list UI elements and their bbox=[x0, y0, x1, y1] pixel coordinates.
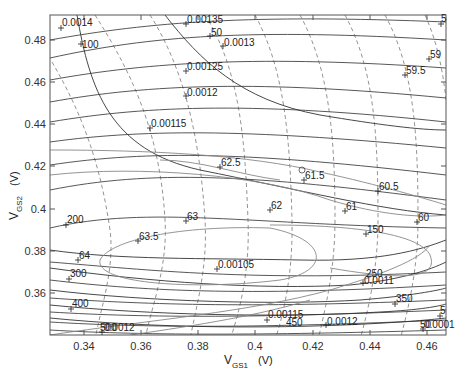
contour-label: 61.5 bbox=[305, 170, 325, 181]
x-axis-title-main: V bbox=[224, 353, 232, 367]
plot-frame bbox=[50, 15, 446, 335]
y-axis-title: V GS2 (V) bbox=[7, 171, 24, 220]
plot-area bbox=[50, 15, 450, 340]
contour-label: 0.0012 bbox=[327, 316, 358, 327]
y-tick-label: 0.46 bbox=[25, 76, 46, 88]
contour-label: 300 bbox=[70, 268, 87, 279]
x-tick-label: 0.44 bbox=[359, 340, 380, 352]
contour-label: 63.5 bbox=[139, 231, 159, 242]
contour-label: 100 bbox=[82, 39, 99, 50]
y-axis-title-sub: GS2 bbox=[15, 195, 24, 212]
contour-label: 59.5 bbox=[406, 65, 426, 76]
contour-label: 350 bbox=[396, 293, 413, 304]
current-contours bbox=[50, 19, 446, 334]
x-tick-label: 0.4 bbox=[247, 340, 262, 352]
x-tick-labels: 0.34 0.36 0.38 0.4 0.42 0.44 0.46 bbox=[73, 340, 437, 352]
contour-label: 61 bbox=[346, 201, 358, 212]
contour-label: 5 bbox=[441, 13, 447, 24]
contour-label: 0.00125 bbox=[187, 61, 224, 72]
y-tick-label: 0.48 bbox=[25, 34, 46, 46]
contour-label: 64 bbox=[79, 250, 91, 261]
contour-label: 0.0014 bbox=[62, 17, 93, 28]
contour-label: 0.00135 bbox=[187, 14, 224, 25]
contour-label: 150 bbox=[367, 224, 384, 235]
y-tick-label: 0.44 bbox=[25, 118, 46, 130]
contour-label: 62 bbox=[271, 200, 283, 211]
x-tick-marks bbox=[84, 15, 427, 335]
x-axis-title: V GS1 (V) bbox=[224, 353, 273, 370]
x-tick-label: 0.34 bbox=[73, 340, 94, 352]
x-tick-label: 0.42 bbox=[302, 340, 323, 352]
y-tick-labels: 0.48 0.46 0.44 0.42 0.4 0.38 0.36 bbox=[25, 34, 46, 299]
y-tick-label: 0.36 bbox=[25, 287, 46, 299]
contour-label: 0.0012 bbox=[104, 322, 135, 333]
contour-label: 59 bbox=[430, 49, 442, 60]
contour-label: 0.00105 bbox=[218, 259, 255, 270]
y-axis-title-main: V bbox=[7, 212, 21, 220]
contour-label: 0.0013 bbox=[224, 37, 255, 48]
contour-label: 60 bbox=[418, 212, 430, 223]
y-tick-label: 0.38 bbox=[25, 245, 46, 257]
contour-label: 200 bbox=[67, 214, 84, 225]
contour-label: 450 bbox=[286, 317, 303, 328]
x-axis-title-unit: (V) bbox=[258, 354, 273, 366]
x-tick-label: 0.38 bbox=[187, 340, 208, 352]
contour-label: 0.00115 bbox=[151, 118, 187, 129]
y-axis-title-unit: (V) bbox=[8, 171, 20, 186]
contour-label: 62.5 bbox=[221, 157, 241, 168]
contour-label: 60.5 bbox=[379, 181, 399, 192]
x-axis-title-sub: GS1 bbox=[232, 361, 249, 370]
x-tick-label: 0.36 bbox=[130, 340, 151, 352]
y-tick-label: 0.42 bbox=[25, 160, 46, 172]
x-tick-label: 0.46 bbox=[416, 340, 437, 352]
contour-label: 0.0001 bbox=[424, 319, 455, 330]
contour-label: 63 bbox=[187, 211, 199, 222]
y-tick-marks bbox=[50, 40, 446, 293]
contour-label: 400 bbox=[72, 298, 89, 309]
contour-label: 0.0011 bbox=[364, 275, 394, 286]
contour-chart: 0.34 0.36 0.38 0.4 0.42 0.44 0.46 0.48 0… bbox=[0, 0, 460, 372]
contour-label: 5 bbox=[440, 305, 446, 316]
contour-label: 50 bbox=[211, 27, 223, 38]
contour-label: 0.0012 bbox=[187, 87, 218, 98]
y-tick-label: 0.4 bbox=[31, 203, 46, 215]
